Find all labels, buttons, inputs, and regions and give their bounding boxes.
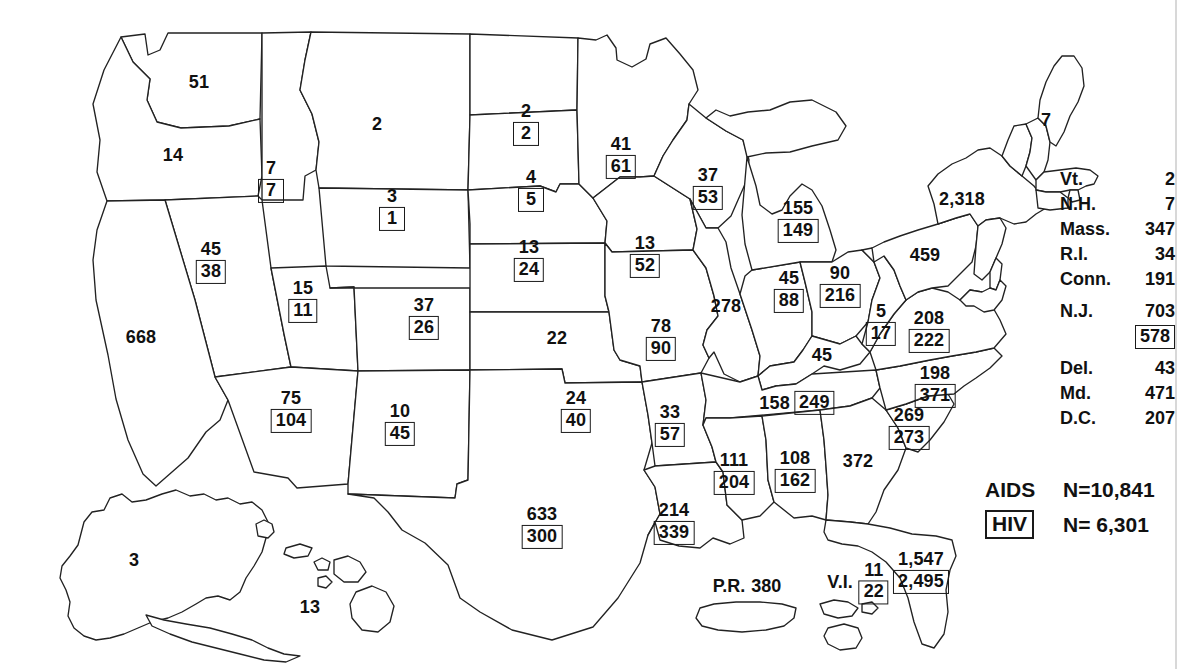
territory-name-vi: V.I. [827, 573, 852, 594]
state-label-va: 208222 [909, 309, 950, 353]
aids-value-sd: 4 [518, 168, 544, 187]
aids-value-ar: 33 [655, 403, 685, 422]
hiv-value-in: 88 [774, 289, 804, 313]
small-state-name-mass: Mass. [1060, 218, 1127, 243]
state-label-ne: 1324 [514, 238, 544, 282]
aids-value-wa: 51 [189, 73, 209, 92]
aids-value-nm: 10 [385, 402, 415, 421]
aids-value-hi: 13 [300, 598, 320, 617]
legend: AIDS N=10,841 HIV N= 6,301 [985, 478, 1155, 547]
small-state-hiv-row-nj: 578 [1060, 325, 1175, 350]
territory-label-pr: P.R.380 [713, 576, 782, 597]
state-label-nd: 22 [513, 102, 539, 146]
small-state-row-dc: D.C.207 [1060, 407, 1175, 432]
aids-value-ms: 111 [714, 451, 755, 470]
aids-value-va: 208 [909, 309, 950, 328]
hawaii-outline [256, 520, 394, 632]
aids-value-oh: 90 [820, 264, 861, 283]
hiv-value-wy: 1 [379, 207, 405, 231]
small-state-hiv-box-nj: 578 [1135, 325, 1175, 349]
state-label-me: 7 [1041, 111, 1051, 130]
aids-value-sc: 269 [889, 406, 930, 425]
aids-value-ky: 45 [812, 346, 832, 365]
aids-value-il: 278 [711, 297, 742, 316]
state-label-pa: 459 [910, 246, 941, 265]
aids-value-ok: 24 [561, 389, 591, 408]
small-state-aids-del: 43 [1127, 357, 1175, 382]
hiv-value-mi: 149 [778, 219, 819, 243]
aids-value-ia: 13 [630, 234, 660, 253]
hiv-value-ok: 40 [561, 409, 591, 433]
aids-value-ak: 3 [129, 551, 139, 570]
aids-value-wi: 37 [693, 166, 723, 185]
state-label-mo: 7890 [646, 317, 676, 361]
hiv-value-tx: 300 [522, 525, 563, 549]
state-label-sd: 45 [518, 168, 544, 212]
small-state-aids-dc: 207 [1127, 407, 1175, 432]
aids-value-ne: 13 [514, 238, 544, 257]
aids-value-co: 37 [409, 296, 439, 315]
aids-value-ut: 15 [288, 279, 317, 298]
hiv-value-mo: 90 [646, 337, 676, 361]
small-state-name-vt: Vt. [1060, 168, 1127, 193]
territory-name-pr: P.R. [713, 576, 746, 597]
small-state-name-conn: Conn. [1060, 268, 1127, 293]
state-label-mt: 2 [372, 115, 382, 134]
hiv-value-va: 222 [909, 329, 950, 353]
hiv-value-ut: 11 [288, 299, 317, 323]
legend-aids-count: N=10,841 [1063, 478, 1155, 502]
virgin-islands-outline [820, 600, 878, 650]
hiv-value-sc: 273 [889, 426, 930, 450]
legend-hiv-key: HIV [985, 510, 1057, 539]
aids-value-mn: 41 [606, 135, 636, 154]
map-figure: 5114772316684538151175104104537262245132… [0, 0, 1180, 669]
hiv-value-nd: 2 [513, 122, 539, 146]
state-label-wi: 3753 [693, 166, 723, 210]
state-label-ia: 1352 [630, 234, 660, 278]
territory-label-vi: V.I.1122 [827, 561, 888, 604]
state-label-ak: 3 [129, 551, 139, 570]
state-label-ok: 2440 [561, 389, 591, 433]
aids-value-vi: 11 [864, 561, 883, 580]
state-label-mi: 155149 [778, 199, 819, 243]
small-state-row-vt: Vt.2 [1060, 168, 1175, 193]
hiv-value-ia: 52 [630, 254, 660, 278]
small-state-row-md: Md.471 [1060, 382, 1175, 407]
small-state-spacer [1060, 293, 1175, 300]
hiv-value-id: 7 [258, 179, 284, 203]
state-label-hi: 13 [300, 598, 320, 617]
hiv-value-fl: 2,495 [893, 570, 949, 594]
state-label-wa: 51 [189, 73, 209, 92]
aids-value-nv: 45 [196, 240, 226, 259]
hiv-value-nc: 371 [915, 384, 956, 408]
hiv-value-sd: 5 [518, 188, 544, 212]
small-state-row-ri: R.I.34 [1060, 243, 1175, 268]
small-state-row-nh: N.H.7 [1060, 193, 1175, 218]
hiv-value-co: 26 [409, 316, 439, 340]
legend-row-hiv: HIV N= 6,301 [985, 510, 1155, 539]
legend-aids-key: AIDS [985, 478, 1057, 502]
small-state-row-conn: Conn.191 [1060, 268, 1175, 293]
legend-row-aids: AIDS N=10,841 [985, 478, 1155, 502]
aids-value-nc: 198 [915, 364, 956, 383]
state-label-mn: 4161 [606, 135, 636, 179]
small-state-aids-md: 471 [1127, 382, 1175, 407]
small-state-name-nh: N.H. [1060, 193, 1127, 218]
aids-value-az: 75 [271, 389, 312, 408]
hiv-value-wv: 17 [866, 322, 896, 346]
aids-value-la: 214 [654, 501, 695, 520]
small-state-name-md: Md. [1060, 382, 1127, 407]
aids-value-wv: 5 [866, 302, 896, 321]
small-states-table-body: Vt.2N.H.7Mass.347R.I.34Conn.191N.J.70357… [1060, 168, 1175, 432]
aids-value-al: 108 [775, 449, 816, 468]
small-state-name-ri: R.I. [1060, 243, 1127, 268]
small-state-row-mass: Mass.347 [1060, 218, 1175, 243]
hiv-value-nm: 45 [385, 422, 415, 446]
hiv-value-oh: 216 [820, 284, 861, 308]
state-label-ga: 372 [843, 452, 874, 471]
state-label-al: 108162 [775, 449, 816, 493]
hiv-value-wi: 53 [693, 186, 723, 210]
small-state-aids-mass: 347 [1127, 218, 1175, 243]
alaska-outline [60, 490, 300, 662]
state-label-az: 75104 [271, 389, 312, 433]
